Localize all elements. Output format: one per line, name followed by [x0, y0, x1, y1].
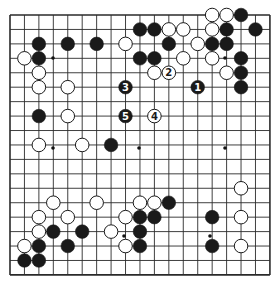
white-stone — [234, 239, 248, 253]
black-stone — [61, 239, 75, 253]
black-stone — [104, 138, 118, 152]
black-stone — [234, 80, 248, 94]
star-point — [51, 56, 55, 60]
white-stone — [61, 80, 75, 94]
white-stone — [104, 225, 118, 239]
black-stone — [61, 37, 75, 51]
move-number-label: 3 — [122, 82, 129, 93]
move-number-label: 2 — [165, 67, 172, 78]
black-stone — [32, 52, 46, 66]
black-stone — [90, 37, 104, 51]
black-stone: 1 — [191, 80, 205, 94]
white-stone — [191, 37, 205, 51]
star-point — [223, 56, 227, 60]
white-stone — [220, 8, 234, 22]
black-stone — [249, 23, 263, 37]
white-stone — [148, 66, 162, 80]
black-stone — [32, 109, 46, 123]
black-stone — [148, 210, 162, 224]
black-stone — [133, 52, 147, 66]
black-stone — [220, 23, 234, 37]
white-stone — [32, 80, 46, 94]
white-stone — [32, 210, 46, 224]
black-stone — [234, 66, 248, 80]
white-stone — [205, 52, 219, 66]
white-stone — [18, 239, 32, 253]
black-stone — [133, 225, 147, 239]
black-stone — [32, 254, 46, 268]
white-stone — [119, 210, 133, 224]
move-number-label: 5 — [122, 111, 129, 122]
black-stone — [32, 239, 46, 253]
white-stone — [148, 196, 162, 210]
black-stone: 3 — [119, 80, 133, 94]
black-stone — [32, 37, 46, 51]
white-stone — [119, 239, 133, 253]
white-stone — [32, 66, 46, 80]
black-stone — [205, 210, 219, 224]
black-stone — [234, 8, 248, 22]
white-stone: 2 — [162, 66, 176, 80]
black-stone — [133, 210, 147, 224]
white-stone — [47, 196, 61, 210]
black-stone — [133, 239, 147, 253]
move-number-label: 1 — [194, 82, 201, 93]
black-stone — [18, 254, 32, 268]
white-stone: 4 — [148, 109, 162, 123]
black-stone — [234, 52, 248, 66]
white-stone — [90, 196, 104, 210]
white-stone — [75, 138, 89, 152]
white-stone — [234, 181, 248, 195]
star-point — [223, 146, 227, 150]
black-stone — [205, 239, 219, 253]
move-number-label: 4 — [151, 111, 158, 122]
white-stone — [61, 210, 75, 224]
white-stone — [32, 138, 46, 152]
white-stone — [205, 8, 219, 22]
white-stone — [61, 109, 75, 123]
black-stone — [220, 37, 234, 51]
black-stone — [148, 23, 162, 37]
white-stone — [176, 23, 190, 37]
star-point — [137, 146, 141, 150]
black-stone — [75, 225, 89, 239]
black-stone — [133, 23, 147, 37]
star-point — [51, 146, 55, 150]
white-stone — [162, 23, 176, 37]
white-stone — [133, 196, 147, 210]
white-stone — [176, 52, 190, 66]
white-stone — [220, 66, 234, 80]
black-stone — [47, 225, 61, 239]
star-point — [122, 234, 126, 238]
black-stone — [162, 37, 176, 51]
black-stone: 5 — [119, 109, 133, 123]
black-stone — [148, 52, 162, 66]
white-stone — [234, 210, 248, 224]
black-stone — [162, 196, 176, 210]
white-stone — [205, 23, 219, 37]
star-point — [208, 234, 212, 238]
white-stone — [119, 37, 133, 51]
white-stone — [32, 225, 46, 239]
black-stone — [205, 37, 219, 51]
white-stone — [18, 52, 32, 66]
go-board: 23154 — [0, 0, 280, 291]
